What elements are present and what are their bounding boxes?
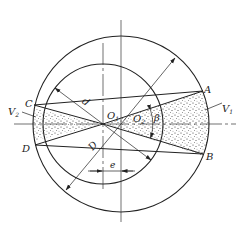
label-b: B — [205, 151, 213, 162]
label-inner-diameter: d — [80, 95, 92, 108]
label-c: C — [25, 98, 33, 109]
label-v2: V2 — [8, 106, 19, 118]
label-v1: V1 — [222, 103, 233, 115]
label-outer-diameter: D — [85, 139, 99, 153]
label-d-point: D — [21, 143, 30, 154]
sand-region-right — [103, 78, 240, 168]
label-o1: O1 — [107, 110, 119, 122]
label-eccentricity: e — [110, 160, 115, 170]
label-beta: β — [153, 112, 160, 123]
label-a: A — [203, 84, 211, 95]
outer-diameter-arrow-lower — [66, 124, 121, 190]
eccentric-circles-diagram: A B C D V1 V2 O1 O2 β d D e — [0, 0, 245, 232]
